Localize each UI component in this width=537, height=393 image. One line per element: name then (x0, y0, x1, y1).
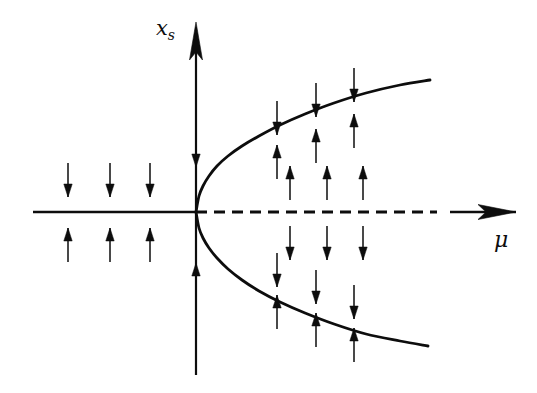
flow-arrow-head (312, 129, 320, 142)
bifurcation-figure: xs μ (0, 0, 537, 393)
flow-arrow-head (323, 166, 331, 179)
horizontal-axis-label: μ (494, 229, 508, 251)
flow-arrow-head (106, 228, 114, 241)
flow-arrow-down (286, 226, 294, 260)
flow-arrow-down (350, 285, 358, 319)
flow-arrow-up (146, 228, 154, 262)
flow-arrow-down (192, 133, 200, 167)
axes-group (33, 22, 516, 375)
flow-arrow-head (359, 247, 367, 260)
flow-arrow-head (286, 247, 294, 260)
flow-arrow-head (273, 145, 281, 158)
flow-arrow-head (273, 274, 281, 287)
flow-arrow-head (350, 114, 358, 127)
flow-arrow-head (146, 184, 154, 197)
flow-arrow-head (350, 306, 358, 319)
flow-arrow-up (106, 228, 114, 262)
flow-arrow-down (64, 163, 72, 197)
flow-arrow-down (146, 163, 154, 197)
flow-arrow-up (359, 166, 367, 200)
flow-arrow-head (286, 166, 294, 179)
flow-arrow-head (359, 166, 367, 179)
flow-arrow-up (323, 166, 331, 200)
flow-arrow-up (64, 228, 72, 262)
flow-arrow-head (192, 154, 200, 167)
flow-arrows-group (64, 68, 367, 362)
vertical-axis-label: xs (156, 18, 175, 42)
flow-arrow-up (312, 129, 320, 163)
flow-arrow-head (192, 263, 200, 276)
flow-arrow-head (146, 228, 154, 241)
flow-arrow-up (286, 166, 294, 200)
upper-stable-branch (196, 80, 430, 212)
flow-arrow-down (323, 226, 331, 260)
flow-arrow-head (64, 184, 72, 197)
flow-arrow-down (273, 253, 281, 287)
vertical-axis-label-subscript: s (168, 27, 175, 43)
flow-arrow-head (323, 247, 331, 260)
flow-arrow-up (273, 145, 281, 179)
flow-arrow-down (359, 226, 367, 260)
flow-arrow-up (350, 328, 358, 362)
flow-arrow-head (106, 184, 114, 197)
flow-arrow-up (192, 263, 200, 297)
flow-arrow-head (312, 291, 320, 304)
vertical-axis-label-base: x (156, 16, 168, 40)
flow-arrow-up (350, 114, 358, 148)
flow-arrow-head (64, 228, 72, 241)
flow-arrow-down (106, 163, 114, 197)
flow-arrow-down (273, 101, 281, 135)
figure-canvas (0, 0, 537, 393)
flow-arrow-down (312, 270, 320, 304)
